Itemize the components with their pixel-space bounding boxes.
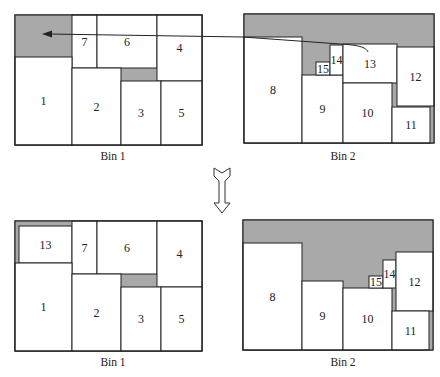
- bin-packing-diagram: 7641235Bin 189151413101211Bin 2 13764123…: [0, 0, 440, 377]
- bin-2: 89151413101211Bin 2: [244, 14, 434, 162]
- item-label: 15: [317, 62, 329, 76]
- panel-after-move: 137641235Bin 1891015141211Bin 2: [15, 220, 433, 368]
- bin-caption: Bin 1: [100, 356, 125, 368]
- panel-before-move: 7641235Bin 189151413101211Bin 2: [15, 14, 434, 162]
- item-7: 7: [72, 15, 97, 68]
- item-label: 7: [82, 35, 88, 49]
- item-4: 4: [157, 15, 202, 81]
- item-label: 1: [41, 94, 47, 108]
- item-label: 7: [82, 241, 88, 255]
- item-label: 3: [138, 312, 144, 326]
- diagram-canvas: 7641235Bin 189151413101211Bin 2 13764123…: [0, 0, 440, 377]
- bin-caption: Bin 2: [330, 150, 355, 162]
- item-11: 11: [392, 311, 429, 350]
- item-label: 6: [124, 35, 130, 49]
- item-label: 10: [362, 106, 374, 120]
- item-label: 11: [405, 324, 417, 338]
- item-15: 15: [316, 62, 330, 76]
- item-label: 2: [94, 100, 100, 114]
- item-13: 13: [343, 44, 397, 83]
- bin-2: 891015141211Bin 2: [243, 220, 433, 368]
- item-14: 14: [330, 45, 343, 75]
- item-5: 5: [161, 81, 202, 145]
- item-8: 8: [244, 37, 302, 143]
- transition-down-arrow-icon: [214, 168, 230, 213]
- item-10: 10: [343, 83, 392, 143]
- item-label: 11: [405, 118, 417, 132]
- item-label: 14: [331, 53, 343, 67]
- item-9: 9: [302, 281, 343, 350]
- item-label: 13: [40, 238, 52, 252]
- item-1: 1: [15, 263, 72, 351]
- item-label: 9: [320, 309, 326, 323]
- item-12: 12: [396, 252, 433, 311]
- empty-space: [15, 15, 72, 57]
- item-2: 2: [72, 68, 121, 145]
- item-6: 6: [97, 221, 157, 274]
- empty-space: [121, 68, 157, 81]
- item-label: 4: [177, 41, 183, 55]
- item-13: 13: [19, 226, 72, 263]
- item-14: 14: [383, 260, 396, 288]
- item-label: 12: [409, 275, 421, 289]
- item-label: 8: [270, 83, 276, 97]
- item-1: 1: [15, 57, 72, 145]
- item-label: 9: [320, 102, 326, 116]
- item-label: 4: [177, 247, 183, 261]
- item-3: 3: [121, 81, 161, 145]
- item-10: 10: [343, 288, 392, 350]
- item-label: 8: [270, 290, 276, 304]
- item-label: 14: [384, 267, 396, 281]
- item-5: 5: [161, 287, 202, 351]
- bin-caption: Bin 2: [330, 356, 355, 368]
- item-label: 2: [94, 306, 100, 320]
- item-label: 3: [138, 106, 144, 120]
- item-label: 6: [124, 241, 130, 255]
- bin-1: 137641235Bin 1: [15, 221, 202, 368]
- item-4: 4: [157, 221, 202, 287]
- item-label: 13: [364, 57, 376, 71]
- bin-1: 7641235Bin 1: [15, 15, 202, 162]
- item-12: 12: [397, 47, 434, 106]
- item-label: 5: [179, 312, 185, 326]
- item-8: 8: [243, 243, 302, 350]
- item-label: 10: [362, 312, 374, 326]
- item-11: 11: [392, 107, 430, 143]
- item-9: 9: [302, 75, 343, 143]
- item-label: 12: [410, 70, 422, 84]
- empty-space: [121, 274, 157, 287]
- item-label: 5: [179, 106, 185, 120]
- bin-caption: Bin 1: [100, 150, 125, 162]
- item-3: 3: [121, 287, 161, 351]
- item-7: 7: [72, 221, 97, 274]
- item-label: 1: [41, 300, 47, 314]
- item-6: 6: [97, 15, 157, 68]
- down-arrow-icon: [214, 168, 230, 213]
- item-label: 15: [370, 275, 382, 289]
- item-15: 15: [369, 275, 383, 289]
- item-2: 2: [72, 274, 121, 351]
